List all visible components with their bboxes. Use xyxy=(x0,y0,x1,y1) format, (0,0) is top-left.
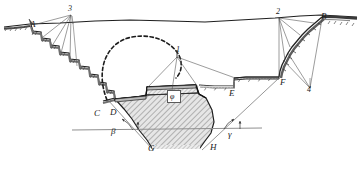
cross-section-figure: A B C D E F G H 1 2 3 4 β γ φ xyxy=(0,0,361,169)
point-label-F: F xyxy=(280,78,286,87)
callout-fan-4 xyxy=(283,19,322,88)
phi-symbol-box: φ xyxy=(167,90,181,103)
point-label-C: C xyxy=(94,109,100,118)
callout-label-1: 1 xyxy=(176,46,180,54)
left-benched-slope xyxy=(29,19,115,103)
dam-body xyxy=(115,85,214,149)
angle-label-beta: β xyxy=(111,127,115,136)
right-benched-slope xyxy=(199,17,324,90)
angle-arc-gamma xyxy=(224,119,241,129)
point-label-A: A xyxy=(30,20,36,29)
point-label-D: D xyxy=(110,108,117,117)
callout-label-3: 3 xyxy=(68,5,72,13)
point-label-B: B xyxy=(321,12,327,21)
callout-fan-1 xyxy=(147,50,238,90)
point-label-G: G xyxy=(148,144,155,153)
callout-label-2: 2 xyxy=(276,8,280,16)
angle-label-phi: φ xyxy=(170,92,174,101)
point-label-E: E xyxy=(229,89,235,98)
angle-label-gamma: γ xyxy=(228,130,232,139)
point-label-H: H xyxy=(210,143,217,152)
callout-label-4: 4 xyxy=(307,86,311,94)
